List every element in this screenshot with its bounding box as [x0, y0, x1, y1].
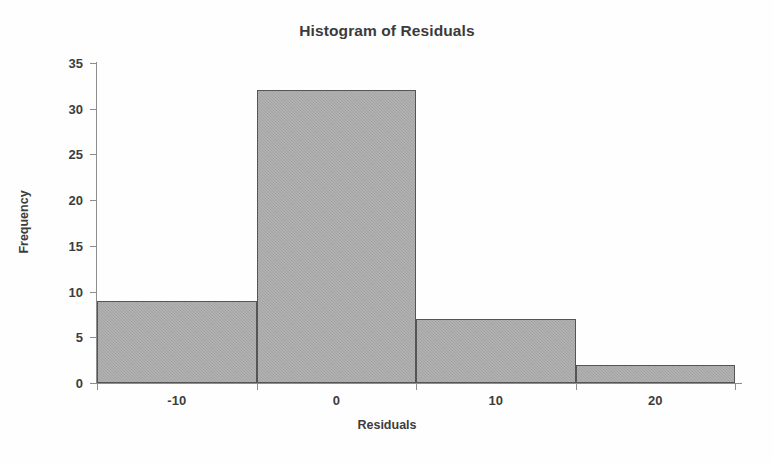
histogram-chart: Histogram of Residuals 05101520253035 -1…: [0, 0, 774, 463]
x-axis-tick: [97, 383, 98, 390]
x-axis-tick-label: 0: [306, 393, 366, 408]
x-axis-tick: [735, 383, 736, 390]
x-axis-tick: [257, 383, 258, 390]
y-axis-tick: [90, 200, 97, 201]
histogram-bar: [576, 365, 736, 383]
chart-title: Histogram of Residuals: [0, 22, 774, 40]
y-axis-tick-label: 30: [43, 101, 83, 116]
y-axis-tick-label: 5: [43, 330, 83, 345]
y-axis-tick: [90, 63, 97, 64]
y-axis-tick-labels: 05101520253035: [39, 0, 83, 463]
y-axis-tick-label: 35: [43, 56, 83, 71]
x-axis-tick-label: 20: [625, 393, 685, 408]
y-axis-tick-label: 25: [43, 147, 83, 162]
y-axis-tick-label: 20: [43, 193, 83, 208]
y-axis-tick: [90, 337, 97, 338]
x-axis-tick-label: 10: [466, 393, 526, 408]
histogram-bar: [97, 301, 257, 383]
y-axis-tick-label: 15: [43, 238, 83, 253]
x-axis-title: Residuals: [0, 418, 774, 432]
x-axis-tick: [576, 383, 577, 390]
x-axis-tick: [416, 383, 417, 390]
y-axis-tick: [90, 292, 97, 293]
y-axis-tick: [90, 109, 97, 110]
y-axis-tick-label: 10: [43, 284, 83, 299]
y-axis-tick-label: 0: [43, 376, 83, 391]
y-axis-tick: [90, 154, 97, 155]
histogram-bar: [257, 90, 417, 383]
histogram-bar: [416, 319, 576, 383]
y-axis-title: Frequency: [17, 177, 31, 267]
x-axis-tick-label: -10: [147, 393, 207, 408]
y-axis-tick: [90, 383, 97, 384]
y-axis-tick: [90, 246, 97, 247]
